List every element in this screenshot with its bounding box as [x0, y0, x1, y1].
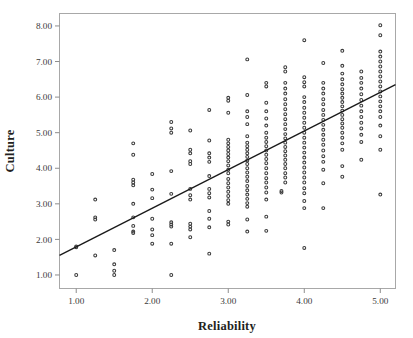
y-tick-label: 7.00 — [36, 57, 52, 67]
y-tick-label: 3.00 — [36, 199, 52, 209]
scatter-plot-figure: 1.002.003.004.005.00 1.002.003.004.005.0… — [0, 0, 413, 338]
y-tick-label: 8.00 — [36, 21, 52, 31]
x-tick-label: 3.00 — [220, 296, 236, 306]
y-tick-label: 5.00 — [36, 128, 52, 138]
x-tick-label: 2.00 — [144, 296, 160, 306]
x-tick-label: 4.00 — [296, 296, 312, 306]
y-axis-title: Culture — [3, 129, 17, 172]
y-tick-label: 6.00 — [36, 92, 52, 102]
y-tick-label: 2.00 — [36, 235, 52, 245]
y-tick-label: 1.00 — [36, 270, 52, 280]
y-tick-label: 4.00 — [36, 163, 52, 173]
x-tick-label: 5.00 — [372, 296, 388, 306]
plot-canvas: 1.002.003.004.005.00 1.002.003.004.005.0… — [0, 0, 413, 338]
x-axis-title: Reliability — [198, 319, 256, 333]
x-tick-label: 1.00 — [68, 296, 84, 306]
